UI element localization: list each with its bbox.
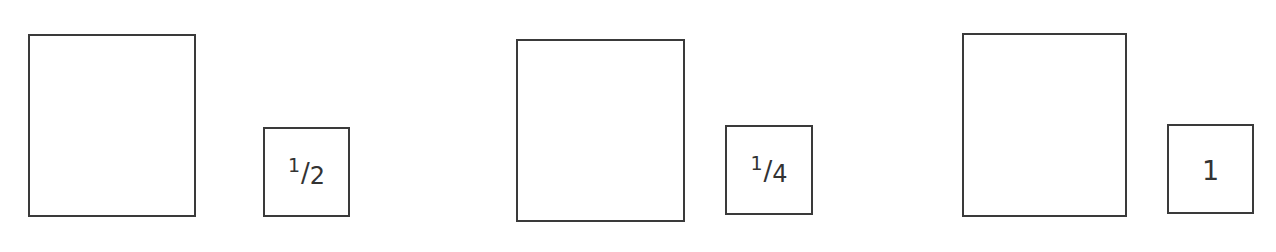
whole-label-one: 1 <box>1169 126 1252 212</box>
fraction-denominator: 4 <box>772 160 787 188</box>
fraction-slash: / <box>764 156 773 186</box>
fraction-denominator: 2 <box>310 162 325 190</box>
large-square-2 <box>516 39 685 222</box>
fraction-numerator: 1 <box>750 152 762 174</box>
small-square-one: 1 <box>1167 124 1254 214</box>
fraction-one-half: 1/2 <box>288 159 325 185</box>
whole-number-one: 1 <box>1202 157 1219 184</box>
fraction-one-quarter: 1/4 <box>750 157 787 183</box>
fraction-label-quarter: 1/4 <box>727 127 811 213</box>
fraction-numerator: 1 <box>288 154 300 176</box>
fraction-slash: / <box>301 158 310 188</box>
large-square-3 <box>962 33 1127 217</box>
small-square-half: 1/2 <box>263 127 350 217</box>
large-square-1 <box>28 34 196 217</box>
fraction-label-half: 1/2 <box>265 129 348 215</box>
small-square-quarter: 1/4 <box>725 125 813 215</box>
